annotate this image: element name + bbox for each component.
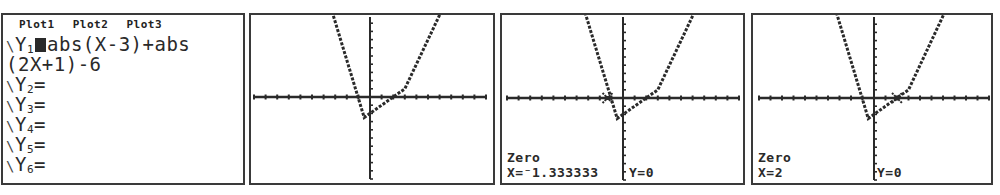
function-curve bbox=[329, 15, 445, 118]
graph-style-icon[interactable]: \ bbox=[6, 118, 15, 134]
zero-title: Zero bbox=[758, 151, 791, 165]
zero-x-value: X=2 bbox=[758, 166, 783, 180]
y1-expression-continued: (2X+1)-6 bbox=[6, 53, 102, 75]
graph-style-icon[interactable]: \ bbox=[6, 38, 15, 54]
graph-screen bbox=[249, 13, 495, 185]
graph-style-icon[interactable]: \ bbox=[6, 98, 15, 114]
function-graph bbox=[251, 15, 493, 183]
zero-result-screen-1: Zero X=⁻1.333333 Y=0 bbox=[500, 13, 745, 185]
graph-style-icon[interactable]: \ bbox=[6, 138, 15, 154]
zero-result-screen-2: Zero X=2 Y=0 bbox=[751, 13, 993, 185]
graph-style-icon[interactable]: \ bbox=[6, 78, 15, 94]
function-curve bbox=[834, 15, 949, 119]
y6-equation[interactable]: \Y6= bbox=[6, 155, 46, 177]
y1-equation-continuation[interactable]: (2X+1)-6 bbox=[6, 55, 102, 74]
zero-y-value: Y=0 bbox=[877, 166, 902, 180]
plot3-toggle[interactable]: Plot3 bbox=[127, 18, 163, 31]
y-editor-screen: Plot1 Plot2 Plot3 \Y1abs(X-3)+abs (2X+1)… bbox=[1, 13, 245, 185]
graph-style-icon[interactable]: \ bbox=[6, 158, 15, 174]
y1-expression: abs(X-3)+abs bbox=[47, 33, 190, 55]
zero-y-value: Y=0 bbox=[629, 166, 654, 180]
zero-title: Zero bbox=[507, 151, 540, 165]
selected-equals-sign bbox=[35, 38, 46, 52]
function-curve bbox=[582, 15, 698, 119]
plot2-toggle[interactable]: Plot2 bbox=[73, 18, 109, 31]
plot1-toggle[interactable]: Plot1 bbox=[19, 18, 55, 31]
zero-x-value: X=⁻1.333333 bbox=[507, 166, 599, 180]
plot-toggles: Plot1 Plot2 Plot3 bbox=[19, 18, 173, 31]
